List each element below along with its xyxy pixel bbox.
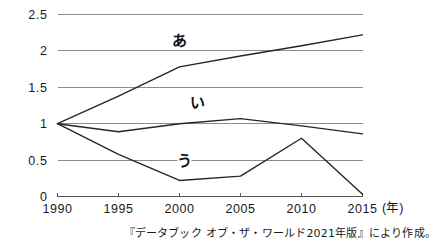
- y-axis-tick-labels: 00.511.522.5: [28, 8, 47, 204]
- tickmarks-group: [58, 193, 363, 197]
- series-label-1: あ: [172, 32, 187, 50]
- series-line-2: [58, 119, 363, 134]
- gridlines-group: [58, 15, 363, 197]
- series-inline-labels: ああいいうう: [172, 32, 205, 170]
- y-tick-label-1: 1: [40, 117, 48, 131]
- x-tick-label-2015: 2015: [347, 202, 377, 216]
- x-axis-unit-label: (年): [382, 201, 403, 215]
- source-caption: 『データブック オブ・ザ・ワールド2021年版』により作成。: [0, 224, 436, 240]
- x-tick-label-1995: 1995: [103, 202, 133, 216]
- chart-svg: 00.511.522.5 199019952000200520102015 ああ…: [0, 0, 442, 215]
- x-tick-label-1990: 1990: [42, 202, 72, 216]
- y-tick-label-1.5: 1.5: [28, 81, 47, 95]
- y-tick-label-0.5: 0.5: [28, 154, 47, 168]
- x-axis-tick-labels: 199019952000200520102015: [42, 202, 377, 216]
- line-chart: 00.511.522.5 199019952000200520102015 ああ…: [0, 0, 442, 215]
- figure-container: 00.511.522.5 199019952000200520102015 ああ…: [0, 0, 442, 248]
- x-tick-label-2005: 2005: [225, 202, 255, 216]
- series-label-3: う: [177, 152, 192, 170]
- series-lines-group: [58, 35, 363, 194]
- y-tick-label-2.5: 2.5: [28, 8, 47, 22]
- x-tick-label-2010: 2010: [286, 202, 316, 216]
- series-line-3: [58, 124, 363, 195]
- x-tick-label-2000: 2000: [164, 202, 194, 216]
- series-line-1: [58, 35, 363, 124]
- y-tick-label-2: 2: [40, 44, 48, 58]
- series-label-2: い: [190, 94, 205, 112]
